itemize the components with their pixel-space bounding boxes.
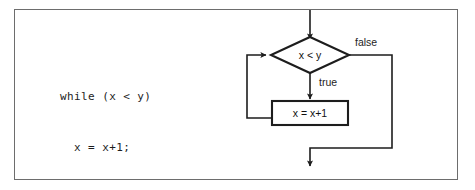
process-label: x = x+1	[293, 107, 328, 119]
decision-label: x < y	[299, 49, 322, 61]
loop-back-arrow	[247, 55, 272, 118]
flowchart-graphic: x < y true x = x+1 false	[0, 0, 475, 190]
false-label: false	[355, 36, 377, 48]
flowchart-figure: while (x < y) x = x+1; x < y true x = x+…	[0, 0, 475, 190]
true-label: true	[319, 76, 337, 88]
